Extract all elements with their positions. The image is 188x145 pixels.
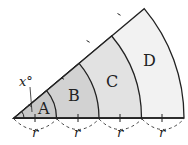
- angle-label: x°: [19, 74, 33, 89]
- radius-label-3: r: [117, 125, 124, 140]
- radius-label-1: r: [32, 125, 39, 140]
- radius-label-4: r: [159, 125, 166, 140]
- radius-label-2: r: [74, 125, 81, 140]
- sector-diagram: A B C D x° r r r r: [0, 0, 188, 145]
- diagram-canvas: A B C D x° r r r r: [0, 0, 188, 145]
- region-label-b: B: [68, 86, 80, 105]
- region-label-a: A: [37, 99, 50, 118]
- region-a: [14, 91, 57, 118]
- region-label-d: D: [143, 51, 156, 70]
- region-label-c: C: [106, 72, 118, 91]
